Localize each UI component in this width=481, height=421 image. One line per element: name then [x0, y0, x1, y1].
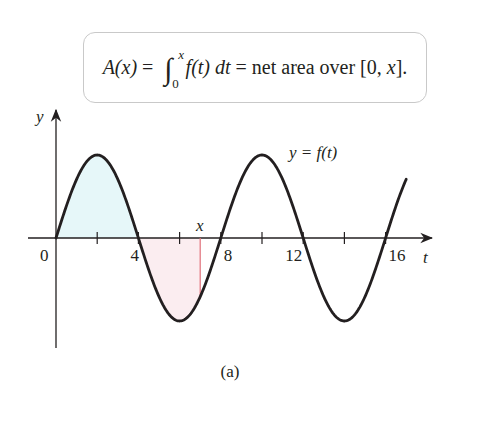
y-axis-label: y: [34, 107, 44, 126]
net-area-figure: A(x) = ∫ x 0 f(t) dt = net area over [0,…: [0, 0, 481, 421]
tick-label-0: 0: [40, 246, 49, 265]
t-axis-label: t: [423, 248, 429, 267]
tick-label-12: 12: [285, 246, 302, 265]
figure-caption: (a): [221, 362, 240, 381]
curve-label: y = f(t): [287, 143, 338, 162]
t-axis-tick-labels: 0481216: [40, 246, 406, 265]
x-marker-label: x: [195, 216, 204, 235]
tick-label-8: 8: [224, 246, 233, 265]
negative-area-shading: [138, 238, 200, 321]
tick-label-16: 16: [389, 246, 406, 265]
tick-label-4: 4: [130, 246, 139, 265]
plot-area: y t y = f(t) x 0481216 (a): [0, 0, 481, 421]
